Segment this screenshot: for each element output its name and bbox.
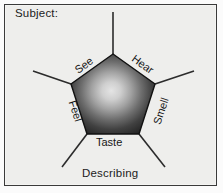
spoke-lower-right	[139, 134, 165, 167]
sensory-pentagon-figure: Subject: See Hear Smell Feel Taste Descr…	[0, 0, 223, 193]
spoke-upper-right	[155, 71, 194, 84]
pentagon-diagram-canvas	[0, 0, 223, 193]
subject-label: Subject:	[15, 7, 58, 19]
spoke-upper-left	[33, 71, 71, 84]
spoke-lower-left	[62, 134, 87, 167]
pentagon-label-taste: Taste	[96, 136, 122, 148]
describing-label: Describing	[82, 167, 138, 179]
